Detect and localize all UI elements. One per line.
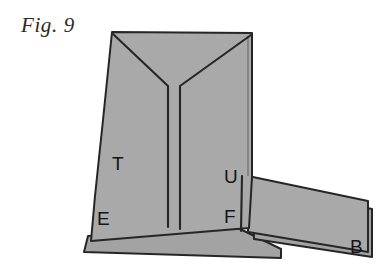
label-f: F bbox=[224, 206, 236, 227]
label-u: U bbox=[224, 166, 238, 187]
label-e: E bbox=[97, 208, 110, 229]
diagram-canvas: T E U F B bbox=[0, 0, 392, 264]
panel-divider-right bbox=[241, 176, 242, 231]
figure-container: Fig. 9 T E U F B bbox=[0, 0, 392, 264]
label-t: T bbox=[112, 153, 124, 174]
label-b: B bbox=[350, 236, 363, 257]
